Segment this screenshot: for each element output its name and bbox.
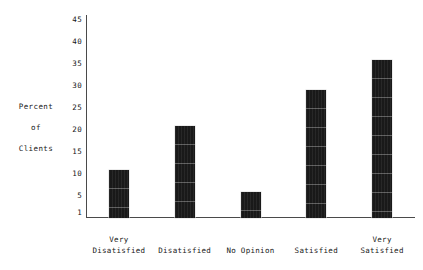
y-tick-label: 5 — [58, 192, 82, 200]
y-tick-label: 45 — [58, 16, 82, 24]
bar-very-satisfied — [372, 60, 392, 218]
bar-disatisfied — [175, 126, 195, 218]
x-axis-category-labels: VeryDisatisfied Disatisfied No Opinion S… — [86, 234, 415, 268]
y-tick-label: 10 — [58, 170, 82, 178]
x-label-very-disatisfied: VeryDisatisfied — [86, 234, 152, 256]
x-label-no-opinion: No Opinion — [218, 245, 284, 256]
plot-area — [86, 15, 415, 218]
y-axis-title-line-2: of — [8, 117, 64, 138]
y-axis-title: Percent of Clients — [8, 96, 64, 159]
y-tick-label: 25 — [58, 104, 82, 112]
bar-very-disatisfied — [109, 170, 129, 218]
y-axis-title-line-1: Percent — [8, 96, 64, 117]
y-tick-label: 35 — [58, 60, 82, 68]
y-tick-label: 30 — [58, 82, 82, 90]
bar-no-opinion — [241, 192, 261, 218]
bar-satisfied — [306, 90, 326, 218]
y-axis-title-line-3: Clients — [8, 138, 64, 159]
x-label-disatisfied: Disatisfied — [152, 245, 218, 256]
bar-chart: Percent of Clients 45 40 35 30 25 20 15 … — [0, 0, 423, 270]
y-tick-label: 15 — [58, 148, 82, 156]
x-label-satisfied: Satisfied — [283, 245, 349, 256]
y-tick-label: 20 — [58, 126, 82, 134]
x-label-very-satisfied: VerySatisfied — [349, 234, 415, 256]
y-tick-label: 40 — [58, 38, 82, 46]
y-tick-label: 1 — [58, 209, 82, 217]
y-axis-tick-labels: 45 40 35 30 25 20 15 10 5 1 — [58, 0, 82, 270]
